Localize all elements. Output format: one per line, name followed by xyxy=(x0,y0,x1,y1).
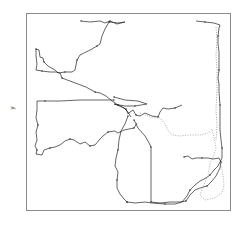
track-point-marker xyxy=(218,69,219,70)
track-point-marker xyxy=(219,104,220,105)
track-point-marker xyxy=(44,100,45,101)
track-point-marker xyxy=(183,156,184,157)
track-point-marker xyxy=(43,61,44,62)
track-point-marker xyxy=(41,70,42,71)
track-point-marker xyxy=(37,124,38,125)
track-point-marker xyxy=(89,145,90,146)
trajectory-line-track-south-central xyxy=(134,120,221,203)
track-point-marker xyxy=(125,108,126,109)
trajectory-line-track-east-edge-dotted xyxy=(216,27,217,140)
track-point-marker xyxy=(201,157,202,158)
trajectory-series xyxy=(35,20,224,204)
track-point-marker xyxy=(113,96,114,97)
track-point-marker xyxy=(164,203,165,204)
trajectory-line-track-north xyxy=(36,21,131,117)
track-point-marker xyxy=(107,131,108,132)
track-point-marker xyxy=(109,20,110,21)
track-point-marker xyxy=(108,21,109,22)
track-point-marker xyxy=(61,77,62,78)
trajectory-line-track-river xyxy=(114,97,182,117)
track-point-marker xyxy=(133,127,134,128)
track-point-marker xyxy=(217,35,218,36)
track-point-marker xyxy=(96,45,97,46)
track-point-marker xyxy=(134,105,135,106)
track-point-marker xyxy=(126,201,127,202)
track-point-marker xyxy=(116,179,117,180)
trajectory-line-track-south-west xyxy=(115,116,128,202)
track-point-marker xyxy=(133,119,134,120)
track-point-marker xyxy=(117,149,118,150)
track-point-marker xyxy=(80,20,81,21)
track-point-marker xyxy=(35,48,36,49)
track-point-marker xyxy=(221,147,222,148)
track-point-marker xyxy=(185,200,186,201)
track-point-marker xyxy=(127,115,128,116)
track-point-marker xyxy=(204,21,205,22)
trajectory-line-track-east-dotted xyxy=(140,113,224,200)
track-point-marker xyxy=(36,149,37,150)
trajectory-plot xyxy=(0,0,241,227)
track-point-marker xyxy=(209,174,210,175)
track-point-marker xyxy=(174,107,175,108)
track-point-marker xyxy=(150,146,151,147)
trajectory-line-track-west-loop xyxy=(35,100,137,155)
track-point-marker xyxy=(206,185,207,186)
track-point-marker xyxy=(69,138,70,139)
track-point-marker xyxy=(94,91,95,92)
track-point-marker xyxy=(135,114,136,115)
track-point-marker xyxy=(113,99,114,100)
track-point-marker xyxy=(189,189,190,190)
track-point-marker xyxy=(64,71,65,72)
track-point-marker xyxy=(76,59,77,60)
track-point-marker xyxy=(49,147,50,148)
